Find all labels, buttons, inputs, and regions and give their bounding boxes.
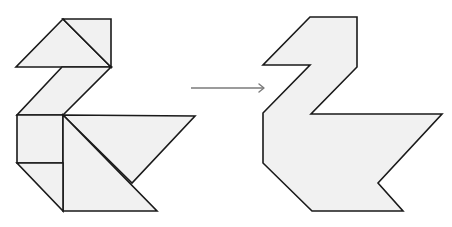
tangram-diagram xyxy=(0,0,452,227)
diagram-canvas xyxy=(0,0,452,227)
tail-small-triangle xyxy=(17,163,63,211)
transform-arrow xyxy=(191,84,264,92)
swan-silhouette xyxy=(263,17,442,211)
chest-square xyxy=(17,115,63,163)
neck-parallelogram xyxy=(17,67,111,115)
swan-silhouette-outline xyxy=(263,17,442,211)
tangram-pieces-swan xyxy=(16,19,195,211)
